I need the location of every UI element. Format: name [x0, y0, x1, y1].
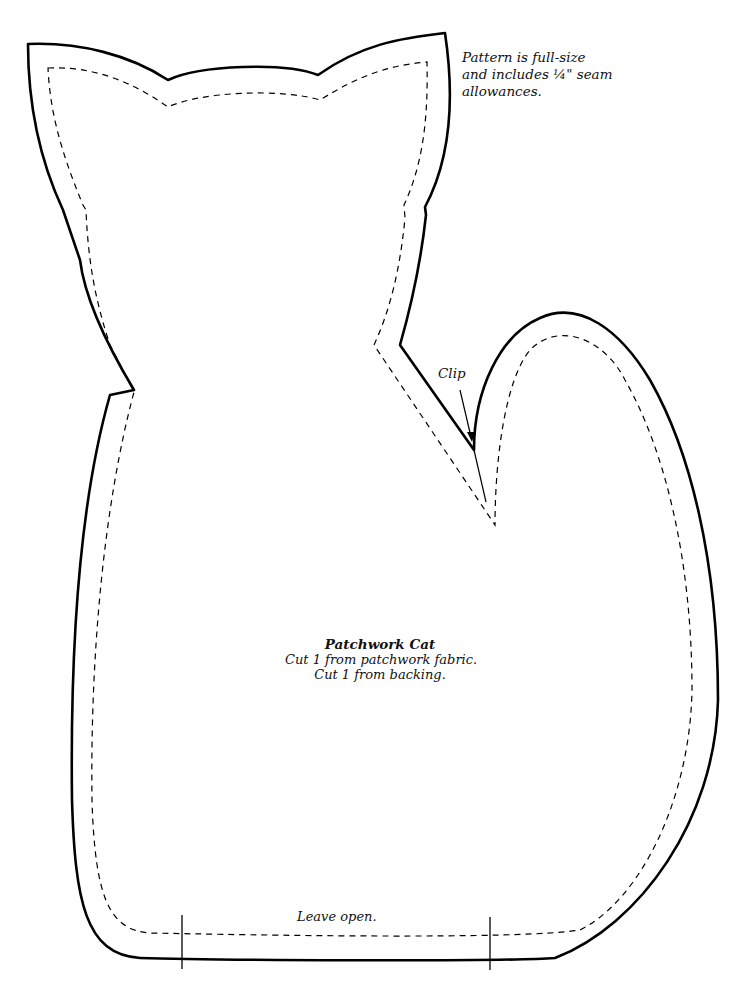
clip-arrow-icon [460, 390, 471, 437]
clip-label: Clip [438, 365, 466, 381]
clip-mark-line [474, 450, 486, 502]
note-line-3: allowances. [462, 83, 612, 100]
instruction-line-2: Cut 1 from backing. [285, 667, 475, 682]
note-line-1: Pattern is full-size [462, 49, 612, 66]
cat-pattern-drawing [0, 0, 731, 989]
pattern-title-block: Patchwork Cat Cut 1 from patchwork fabri… [285, 637, 475, 682]
instruction-line-1: Cut 1 from patchwork fabric. [285, 652, 475, 667]
seam-line [48, 62, 692, 936]
pattern-title: Patchwork Cat [285, 637, 475, 652]
cut-line [28, 33, 718, 960]
seam-allowance-note: Pattern is full-size and includes ¼" sea… [462, 49, 612, 100]
leave-open-label: Leave open. [297, 909, 377, 924]
note-line-2: and includes ¼" seam [462, 66, 612, 83]
